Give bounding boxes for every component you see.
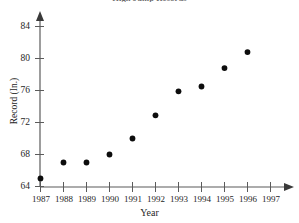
y-tick-label-80: 80 [8, 53, 30, 63]
data-point [222, 65, 228, 71]
y-axis-arrow-icon [36, 11, 44, 21]
data-point [199, 84, 205, 90]
data-point [153, 112, 159, 118]
scatter-chart: High Jump Records [0, 0, 299, 223]
data-point [107, 152, 113, 158]
data-point [38, 176, 44, 182]
data-point [176, 88, 182, 94]
data-point [245, 49, 251, 55]
data-point [61, 160, 67, 166]
data-point [84, 160, 90, 166]
y-axis-title: Record (In.) [9, 63, 19, 139]
plot-area [0, 0, 299, 223]
y-tick-label-64: 64 [8, 181, 30, 191]
x-axis-arrow-icon [284, 183, 294, 191]
data-point [130, 136, 136, 142]
x-tick-label-1997: 1997 [256, 194, 286, 204]
x-axis-title: Year [0, 207, 299, 218]
y-tick-label-68: 68 [8, 149, 30, 159]
y-tick-label-84: 84 [8, 21, 30, 31]
data-point-group [38, 49, 251, 181]
